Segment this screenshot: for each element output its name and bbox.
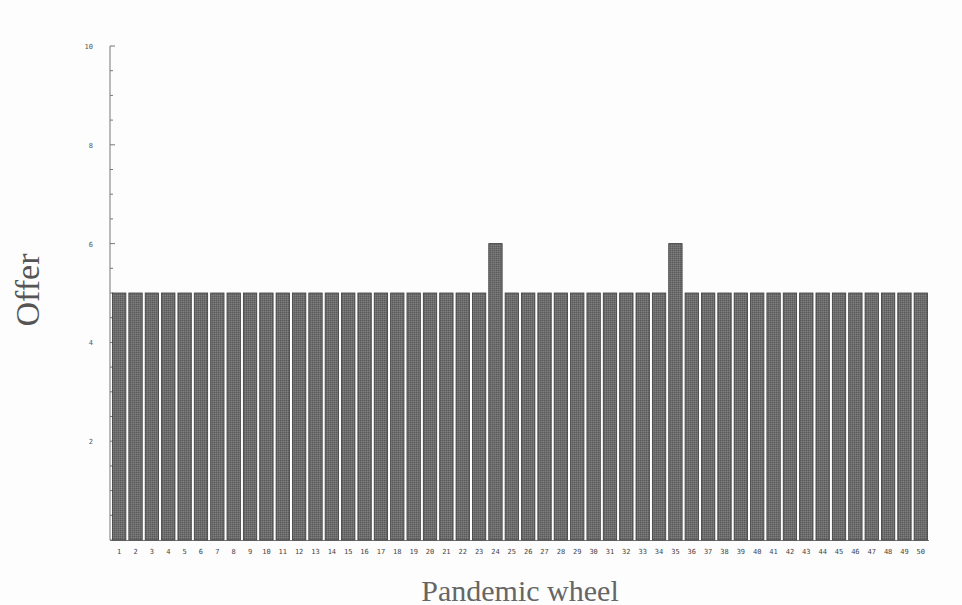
x-tick-label: 19 [409,548,417,556]
x-tick-label: 49 [900,548,908,556]
x-tick-label: 4 [166,548,170,556]
x-tick-label: 36 [688,548,696,556]
x-tick-label: 11 [279,548,287,556]
x-tick-label: 46 [851,548,859,556]
bar-42 [783,293,796,540]
x-tick-label: 17 [377,548,385,556]
bar-46 [849,293,862,540]
x-tick-label: 13 [311,548,319,556]
x-tick-label: 48 [884,548,892,556]
x-tick-label: 28 [557,548,565,556]
x-tick-label: 50 [917,548,925,556]
bar-5 [178,293,191,540]
x-tick-label: 43 [802,548,810,556]
x-tick-label: 26 [524,548,532,556]
x-tick-label: 2 [133,548,137,556]
x-tick-label: 9 [248,548,252,556]
y-tick-label: 8 [89,142,93,150]
bar-12 [292,293,305,540]
bar-3 [145,293,158,540]
bar-1 [113,293,126,540]
x-axis-label: Pandemic wheel [421,574,618,605]
bar-41 [767,293,780,540]
x-tick-label: 32 [622,548,630,556]
bar-26 [522,293,535,540]
bar-29 [571,293,584,540]
bar-4 [162,293,175,540]
bar-20 [423,293,436,540]
bar-37 [701,293,714,540]
bar-25 [505,293,518,540]
x-tick-label: 5 [183,548,187,556]
x-tick-label: 34 [655,548,663,556]
bar-49 [898,293,911,540]
bar-17 [374,293,387,540]
x-tick-label: 1 [117,548,121,556]
x-tick-label: 7 [215,548,219,556]
x-tick-label: 3 [150,548,154,556]
x-tick-label: 8 [232,548,236,556]
bar-45 [832,293,845,540]
bar-21 [440,293,453,540]
x-tick-label: 47 [868,548,876,556]
y-tick-label: 4 [89,339,93,347]
bar-7 [211,293,224,540]
x-tick-label: 23 [475,548,483,556]
bar-6 [194,293,207,540]
bar-23 [472,293,485,540]
y-tick-label: 2 [89,438,93,446]
bar-35 [669,244,682,540]
bar-24 [489,244,502,540]
bar-39 [734,293,747,540]
bar-31 [603,293,616,540]
x-tick-label: 22 [459,548,467,556]
bar-48 [881,293,894,540]
x-tick-label: 20 [426,548,434,556]
bar-22 [456,293,469,540]
bar-36 [685,293,698,540]
bar-13 [309,293,322,540]
bar-27 [538,293,551,540]
x-tick-label: 35 [671,548,679,556]
bar-44 [816,293,829,540]
bars [113,244,928,540]
bar-30 [587,293,600,540]
bar-47 [865,293,878,540]
x-tick-label: 25 [508,548,516,556]
x-tick-label: 29 [573,548,581,556]
x-tick-label: 44 [818,548,826,556]
bar-18 [391,293,404,540]
bar-32 [620,293,633,540]
bar-2 [129,293,142,540]
x-tick-label: 42 [786,548,794,556]
x-tick-label: 6 [199,548,203,556]
bar-50 [914,293,927,540]
x-tick-label: 10 [262,548,270,556]
x-tick-label: 16 [360,548,368,556]
x-tick-label: 41 [769,548,777,556]
x-tick-label: 30 [589,548,597,556]
bar-34 [652,293,665,540]
x-tick-label: 27 [540,548,548,556]
x-tick-labels: 1234567891011121314151617181920212223242… [117,548,925,556]
y-tick-label: 10 [85,43,93,51]
x-tick-label: 14 [328,548,336,556]
x-tick-label: 45 [835,548,843,556]
x-tick-label: 15 [344,548,352,556]
bar-33 [636,293,649,540]
bar-10 [260,293,273,540]
x-tick-label: 21 [442,548,450,556]
x-tick-label: 38 [720,548,728,556]
y-tick-label: 6 [89,241,93,249]
bar-38 [718,293,731,540]
bar-11 [276,293,289,540]
y-axis-label: Offer [9,254,47,327]
bar-8 [227,293,240,540]
x-tick-label: 31 [606,548,614,556]
bar-9 [243,293,256,540]
x-tick-label: 24 [491,548,499,556]
x-tick-label: 12 [295,548,303,556]
bar-28 [554,293,567,540]
x-tick-label: 18 [393,548,401,556]
